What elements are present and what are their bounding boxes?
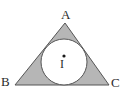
vertex-label-c: C: [111, 76, 120, 89]
inscribed-circle: [41, 39, 87, 85]
vertex-label-b: B: [1, 75, 10, 88]
vertex-label-a: A: [61, 8, 70, 21]
geometry-figure: A B C I: [0, 0, 125, 106]
incenter-label: I: [60, 58, 64, 70]
